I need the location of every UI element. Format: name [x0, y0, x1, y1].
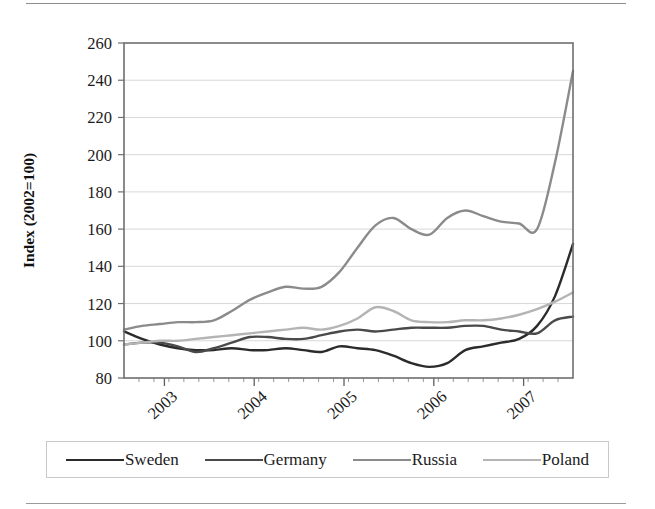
legend-swatch-sweden — [66, 459, 124, 461]
series-line-russia — [124, 71, 573, 330]
ytick-label-220: 220 — [87, 108, 112, 127]
legend-label-poland: Poland — [542, 451, 589, 468]
legend-swatch-russia — [353, 459, 411, 461]
xtick-label-2005: 2005 — [323, 387, 360, 423]
ytick-label-260: 260 — [87, 34, 112, 53]
ytick-label-240: 240 — [87, 71, 112, 90]
legend-item-poland[interactable]: Poland — [483, 451, 589, 468]
ytick-label-80: 80 — [96, 369, 113, 388]
ytick-label-200: 200 — [87, 146, 112, 165]
xtick-label-2004: 2004 — [234, 387, 271, 423]
plot-area: 80100120140160180200220240260Index (2002… — [0, 0, 655, 440]
chart-legend: Sweden Germany Russia Poland — [46, 441, 609, 478]
legend-swatch-germany — [205, 459, 263, 461]
series-line-sweden — [124, 244, 573, 367]
legend-item-sweden[interactable]: Sweden — [66, 451, 179, 468]
ytick-label-140: 140 — [87, 257, 112, 276]
xtick-label-2006: 2006 — [413, 387, 450, 423]
line-chart: 80100120140160180200220240260Index (2002… — [0, 0, 655, 440]
xtick-label-2003: 2003 — [144, 387, 181, 423]
page-rule-bottom — [26, 503, 626, 504]
legend-label-germany: Germany — [264, 451, 327, 468]
ytick-label-100: 100 — [87, 332, 112, 351]
ytick-label-160: 160 — [87, 220, 112, 239]
plot-frame — [124, 43, 573, 378]
ytick-label-180: 180 — [87, 183, 112, 202]
legend-swatch-poland — [483, 459, 541, 461]
series-line-poland — [124, 292, 573, 344]
ytick-label-120: 120 — [87, 295, 112, 314]
xtick-label-2007: 2007 — [503, 387, 540, 423]
figure-container: 80100120140160180200220240260Index (2002… — [0, 0, 655, 509]
legend-item-russia[interactable]: Russia — [353, 451, 457, 468]
legend-label-russia: Russia — [412, 451, 457, 468]
legend-label-sweden: Sweden — [125, 451, 179, 468]
legend-item-germany[interactable]: Germany — [205, 451, 327, 468]
y-axis-title: Index (2002=100) — [20, 153, 38, 268]
